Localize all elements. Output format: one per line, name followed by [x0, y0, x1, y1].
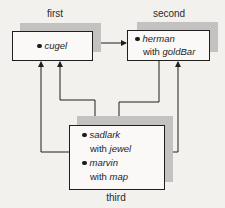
with-label: with [90, 171, 110, 182]
node-second[interactable]: herman with goldBar [127, 30, 210, 61]
entry-herman: herman [135, 33, 175, 44]
bullet-icon [37, 44, 42, 49]
node-first[interactable]: cugel [12, 31, 93, 61]
entry-name: herman [143, 33, 175, 44]
entry-marvin: marvin [82, 157, 118, 168]
node-caption-first: first [40, 8, 70, 19]
with-item: goldBar [163, 46, 196, 57]
entry-marvin-with: with map [90, 171, 128, 182]
entry-sadlark: sadlark [82, 129, 120, 140]
with-label: with [90, 143, 110, 154]
edge-third-to-first [41, 62, 69, 152]
node-caption-second: second [150, 8, 188, 19]
entry-sadlark-with: with jewel [90, 143, 131, 154]
diagram-canvas: first cugel second herman with goldBar s… [0, 0, 225, 208]
entry-name: cugel [45, 40, 68, 51]
bullet-icon [82, 133, 87, 138]
entry-cugel: cugel [37, 40, 67, 51]
with-item: map [110, 171, 128, 182]
entry-herman-with: with goldBar [143, 46, 195, 57]
bullet-icon [82, 161, 87, 166]
node-third[interactable]: sadlark with jewel marvin with map [69, 125, 165, 190]
with-item: jewel [110, 143, 132, 154]
with-label: with [143, 46, 163, 57]
edge-second-to-third [119, 61, 159, 124]
entry-name: marvin [90, 157, 119, 168]
bullet-icon [135, 37, 140, 42]
entry-name: sadlark [90, 129, 121, 140]
node-caption-third: third [100, 192, 132, 203]
